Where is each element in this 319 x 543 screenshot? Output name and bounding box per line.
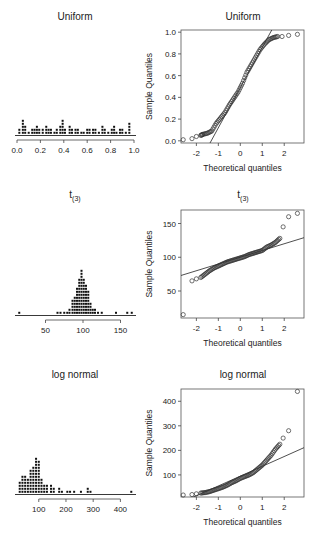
y-tick-label: 0.0: [165, 137, 177, 146]
x-tick-label: 50: [41, 326, 50, 335]
dot-marker: [74, 306, 76, 308]
dot-marker: [21, 485, 23, 487]
dot-marker: [89, 132, 91, 134]
y-tick-label: 300: [163, 422, 177, 431]
dot-marker: [24, 129, 26, 131]
dot-marker: [22, 129, 24, 131]
dot-marker: [81, 294, 83, 296]
dot-marker: [98, 132, 100, 134]
dotplot-3: 100200300400: [15, 458, 136, 514]
dot-marker: [101, 129, 103, 131]
dot-marker: [85, 294, 87, 296]
dot-marker: [107, 132, 109, 134]
x-tick-label: 100: [32, 505, 46, 514]
dot-marker: [121, 129, 123, 131]
dot-marker: [32, 479, 34, 481]
x-tick-label: 2: [282, 324, 287, 333]
svg-text:Uniform: Uniform: [57, 11, 92, 22]
dot-marker: [78, 279, 80, 281]
dot-marker: [50, 491, 52, 493]
dot-marker: [59, 132, 61, 134]
x-tick-label: 100: [76, 326, 90, 335]
dot-marker: [125, 132, 127, 134]
dot-marker: [35, 476, 37, 478]
dot-marker: [83, 132, 85, 134]
qq-point: [281, 225, 285, 229]
dot-marker: [85, 306, 87, 308]
dot-marker: [83, 282, 85, 284]
qq-point: [295, 389, 299, 393]
dot-marker: [94, 309, 96, 311]
dot-marker: [83, 291, 85, 293]
dot-marker: [72, 306, 74, 308]
y-tick-label: 100: [163, 471, 177, 480]
dot-marker: [40, 485, 42, 487]
dot-marker: [76, 303, 78, 305]
x-tick-label: -1: [215, 324, 223, 333]
dot-marker: [80, 132, 82, 134]
dot-marker: [76, 288, 78, 290]
dot-marker: [87, 300, 89, 302]
dot-marker: [69, 312, 71, 314]
dot-marker: [50, 488, 52, 490]
dot-marker: [42, 129, 44, 131]
dot-marker: [30, 482, 32, 484]
dot-marker: [35, 458, 37, 460]
dot-marker: [78, 282, 80, 284]
dot-marker: [62, 132, 64, 134]
dotplot-2: 50100150: [15, 270, 136, 335]
dot-marker: [87, 297, 89, 299]
dot-marker: [43, 491, 45, 493]
x-axis-label: Theoretical quantiles: [203, 163, 281, 173]
y-tick-label: 0.6: [165, 72, 177, 81]
dot-marker: [74, 297, 76, 299]
svg-text:Uniform: Uniform: [225, 11, 260, 22]
dot-marker: [38, 491, 40, 493]
dot-marker: [94, 132, 96, 134]
dot-marker: [30, 479, 32, 481]
dot-marker: [94, 129, 96, 131]
qq-point: [190, 279, 194, 283]
dot-marker: [76, 312, 78, 314]
dot-marker: [27, 491, 29, 493]
dot-marker: [24, 488, 26, 490]
dot-marker: [19, 485, 21, 487]
dot-marker: [121, 132, 123, 134]
dot-marker: [32, 482, 34, 484]
dot-marker: [22, 120, 24, 122]
dot-marker: [115, 132, 117, 134]
dot-marker: [85, 300, 87, 302]
dot-marker: [89, 129, 91, 131]
x-tick-label: 0: [238, 503, 243, 512]
dot-marker: [62, 126, 64, 128]
dot-marker: [22, 126, 24, 128]
x-tick-label: 1: [260, 324, 265, 333]
dot-marker: [34, 129, 36, 131]
dot-marker: [35, 488, 37, 490]
dot-marker: [81, 300, 83, 302]
dot-marker: [92, 312, 94, 314]
dot-marker: [101, 132, 103, 134]
dot-marker: [119, 129, 121, 131]
dot-marker: [64, 132, 66, 134]
dot-marker: [62, 129, 64, 131]
x-axis-label: Theoretical quantiles: [203, 517, 281, 527]
dot-marker: [75, 129, 77, 131]
dot-marker: [32, 488, 34, 490]
dot-marker: [94, 312, 96, 314]
y-tick-label: 400: [163, 397, 177, 406]
x-tick-label: 1: [260, 149, 265, 158]
dot-marker: [19, 488, 21, 490]
dot-marker: [75, 132, 77, 134]
qq-point: [216, 119, 220, 123]
dot-marker: [76, 291, 78, 293]
dotplot-1: 0.00.20.40.60.81.0: [11, 120, 140, 155]
dot-marker: [130, 491, 132, 493]
dot-marker: [81, 273, 83, 275]
dot-marker: [113, 132, 115, 134]
dot-marker: [101, 312, 103, 314]
dot-marker: [69, 309, 71, 311]
dot-marker: [38, 464, 40, 466]
dot-marker: [62, 123, 64, 125]
dot-marker: [45, 129, 47, 131]
